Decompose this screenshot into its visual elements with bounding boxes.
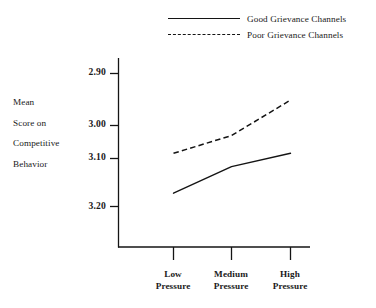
chart-plot-area — [0, 0, 376, 308]
data-line-good-grievance-channels — [174, 153, 291, 193]
line-chart-figure: Good Grievance Channels Poor Grievance C… — [0, 0, 376, 308]
y-tick-marks — [110, 74, 119, 207]
data-line-poor-grievance-channels — [174, 100, 291, 153]
x-tick-marks — [174, 247, 291, 260]
